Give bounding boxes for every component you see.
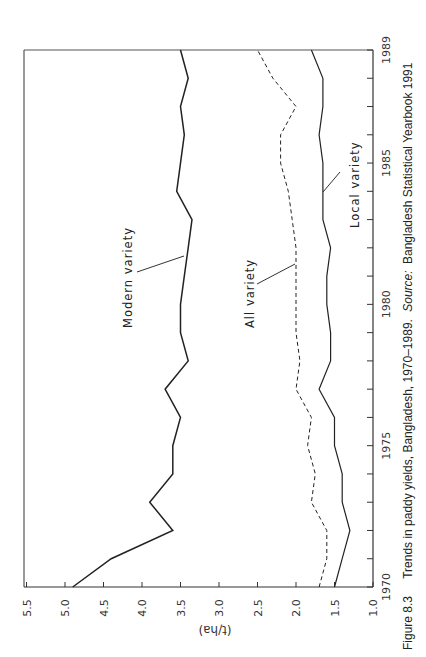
figure-caption: Figure 8.3 Trends in paddy yields, Bangl… — [401, 62, 415, 650]
year-tick-label: 1980 — [380, 290, 393, 318]
value-tick-label: 1.0 — [367, 599, 380, 617]
year-tick-label: 1975 — [380, 432, 393, 460]
caption-main: Trends in paddy yields, Bangladesh, 1970… — [401, 319, 415, 579]
all-variety-leader — [257, 264, 295, 284]
modern-variety-leader — [137, 256, 184, 272]
local-variety-leader — [323, 172, 340, 192]
local-variety-line — [311, 50, 350, 587]
value-tick-label: 3.5 — [175, 599, 188, 617]
year-tick-label: 1985 — [380, 149, 393, 177]
value-tick-label: 5.0 — [59, 599, 72, 617]
year-tick-label: 1989 — [380, 36, 393, 64]
value-tick-label: 4.0 — [136, 599, 149, 617]
year-tick-label: 1970 — [380, 573, 393, 601]
value-tick-label: 2.0 — [290, 599, 303, 617]
yield-chart: 1.01.52.02.53.03.54.04.55.05.5 197019751… — [0, 0, 426, 657]
value-tick-label: 2.5 — [252, 599, 265, 617]
caption-source-label: Source: — [401, 270, 415, 311]
series-lines — [73, 50, 350, 587]
local-variety-label: Local variety — [348, 141, 362, 228]
value-tick-label: 4.5 — [98, 599, 111, 617]
caption-source: Bangladesh Statistical Yearbook 1991 — [401, 62, 415, 264]
value-tick-label: 5.5 — [21, 599, 34, 617]
svg-text:Figure 8.3 Trends in pad: Figure 8.3 Trends in paddy yields, Bangl… — [401, 62, 415, 650]
chart-frame — [24, 50, 373, 587]
figure-number: Figure 8.3 — [401, 596, 415, 650]
y-axis-label: (t/ha) — [198, 623, 231, 637]
value-tick-label: 3.0 — [213, 599, 226, 617]
year-ticks: 19701975198019851989 — [367, 36, 393, 601]
all-variety-label: All variety — [243, 259, 257, 328]
all-variety-line — [258, 50, 327, 587]
value-tick-label: 1.5 — [329, 599, 342, 617]
series-annotations: Modern variety All variety Local variety — [121, 141, 362, 328]
modern-variety-label: Modern variety — [121, 227, 135, 328]
